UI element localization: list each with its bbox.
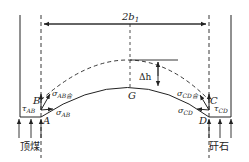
tau-cd-label: τCD	[214, 104, 228, 114]
delta-h-label: Δh	[139, 72, 151, 82]
sigma-ab-label: σAB	[56, 108, 71, 118]
gangue-label: 矸石	[209, 141, 229, 152]
point-b-label: B	[32, 95, 40, 106]
arch-stress-diagram: 2b1 Δh B A C D G τAB σAB合 σAB τCD σCD合 σ…	[0, 0, 249, 162]
span-label: 2b	[121, 11, 135, 22]
span-dimension: 2b1	[44, 11, 206, 24]
span-label-sub: 1	[135, 16, 139, 24]
point-a-label: A	[42, 115, 50, 126]
right-support-arrows	[209, 119, 231, 138]
sigma-cd-label: σCD	[178, 106, 193, 116]
left-support-arrows	[19, 119, 41, 138]
point-d-label: D	[198, 115, 207, 126]
top-coal-label: 顶煤	[20, 140, 40, 152]
right-stress-vectors	[197, 94, 209, 110]
delta-h-dimension: Δh	[130, 60, 178, 86]
point-g-label: G	[128, 90, 136, 101]
sigma-ab-resultant-label: σAB合	[52, 89, 73, 99]
sigma-cd-resultant-label: σCD合	[177, 89, 199, 99]
svg-text:2b1: 2b1	[121, 11, 139, 24]
